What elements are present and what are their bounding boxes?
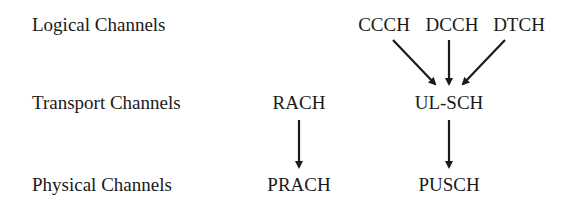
mapping-arrows xyxy=(0,0,572,213)
arrow-ccch-to-ulsch xyxy=(393,40,435,84)
arrow-dtch-to-ulsch xyxy=(463,40,505,84)
